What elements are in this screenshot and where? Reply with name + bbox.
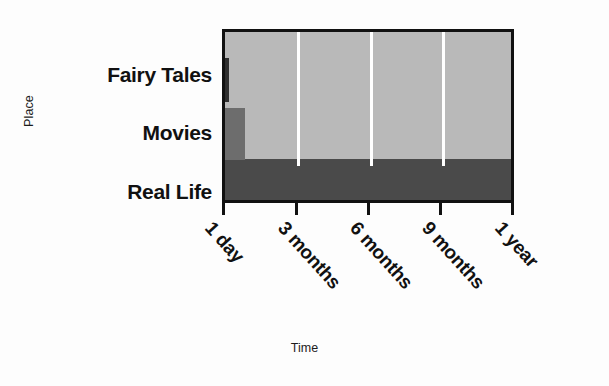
bar-fairy-tales bbox=[225, 58, 229, 102]
x-tick-label-6-months: 6 months bbox=[347, 218, 417, 292]
gridline-3-months bbox=[297, 32, 300, 166]
x-tick-label-3-months: 3 months bbox=[275, 218, 345, 292]
bar-real-life bbox=[225, 159, 511, 200]
bar-movies bbox=[225, 108, 245, 160]
x-tick-9-months bbox=[439, 203, 442, 215]
y-tick-label-fairy-tales: Fairy Tales bbox=[40, 64, 212, 85]
x-tick-1-year bbox=[511, 203, 514, 215]
x-axis-ticks bbox=[222, 203, 514, 215]
gridline-6-months bbox=[370, 32, 373, 166]
gridline-9-months bbox=[442, 32, 445, 166]
x-tick-label-1-year: 1 year bbox=[492, 218, 542, 271]
x-tick-label-9-months: 9 months bbox=[419, 218, 489, 292]
y-tick-label-real-life: Real Life bbox=[40, 181, 212, 202]
y-axis-tick-labels: Fairy Tales Movies Real Life bbox=[40, 29, 212, 203]
x-tick-label-1-day: 1 day bbox=[202, 218, 248, 266]
x-axis-title: Time bbox=[0, 341, 609, 355]
x-tick-6-months bbox=[367, 203, 370, 215]
y-tick-label-movies: Movies bbox=[40, 122, 212, 143]
x-tick-3-months bbox=[295, 203, 298, 215]
plot-area bbox=[222, 29, 514, 203]
x-tick-1-day bbox=[222, 203, 225, 215]
bar-chart: Place Fairy Tales Movies Real Life 1 day… bbox=[0, 0, 609, 386]
y-axis-title: Place bbox=[22, 76, 36, 146]
